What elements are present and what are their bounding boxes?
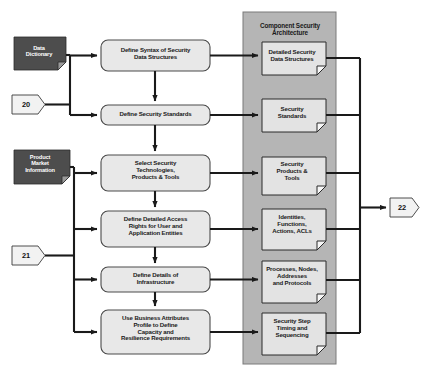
connector-label-21[interactable]: 21 — [12, 251, 40, 260]
output-label-security-products-tools: Security Products & Tools — [261, 161, 323, 181]
output-label-detailed-security-data-structures: Detailed Security Data Structures — [261, 49, 323, 63]
source-data-dictionary: Data Dictionary — [14, 45, 64, 58]
panel-title-line1: Component Security — [246, 22, 334, 29]
process-label-select-security-technologies: Select Security Technologies, Products &… — [101, 160, 210, 180]
process-label-define-details-of-infrastructure: Define Details of Infrastructure — [101, 272, 210, 286]
process-label-define-syntax: Define Syntax of Security Data Structure… — [101, 47, 210, 61]
output-label-security-step-timing-sequencing: Security Step Timing and Sequencing — [261, 318, 323, 338]
output-label-processes-nodes-addresses-protocols: Processes, Nodes, Addresses and Protocol… — [259, 266, 325, 286]
process-label-define-detailed-access-rights: Define Detailed Access Rights for User a… — [101, 216, 210, 236]
output-label-security-standards: Security Standards — [261, 106, 323, 120]
panel-title: Component Security Architecture — [246, 22, 334, 36]
process-label-use-business-attributes-profile: Use Business Attributes Profile to Defin… — [99, 315, 212, 342]
process-label-define-security-standards: Define Security Standards — [101, 111, 210, 118]
diagram-vector-layer — [0, 0, 429, 376]
source-product-market-information: Product Market Information — [13, 154, 67, 173]
connector-label-22[interactable]: 22 — [390, 203, 414, 212]
output-label-identities-functions-actions-acls: Identities, Functions, Actions, ACLs — [260, 214, 324, 234]
panel-title-line2: Architecture — [246, 29, 334, 36]
diagram-canvas: Component Security Architecture Data Dic… — [0, 0, 429, 376]
connector-label-20[interactable]: 20 — [12, 100, 40, 109]
